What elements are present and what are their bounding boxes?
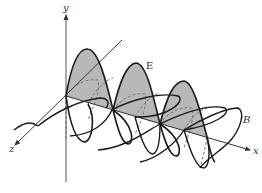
y-axis-label: y [63, 3, 69, 13]
magnetic-field-label: B [243, 115, 250, 125]
electric-field-label: E [146, 61, 153, 71]
em-wave-diagram: y x z E B [0, 0, 262, 193]
x-axis-label: x [253, 146, 259, 156]
x-axis [66, 96, 250, 150]
diagram-canvas [0, 0, 262, 193]
z-axis-label: z [9, 144, 14, 154]
